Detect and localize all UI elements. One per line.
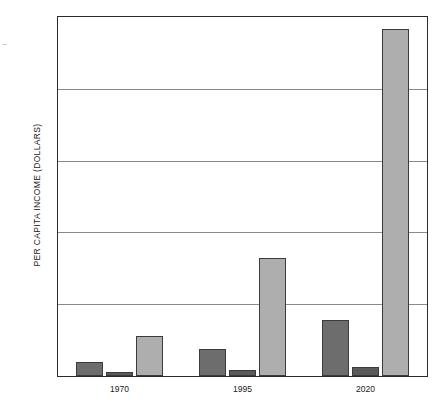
bar-1995-series-a [199, 349, 226, 376]
bar-2020-series-b [352, 367, 379, 376]
bar-1995-series-b [229, 370, 256, 376]
x-tick-label-2020: 2020 [356, 384, 375, 394]
plot-area [57, 16, 428, 377]
gridline [58, 161, 427, 162]
y-axis-title: PER CAPITA INCOME (DOLLARS) [32, 95, 42, 295]
gridline [58, 304, 427, 305]
x-tick-label-1970: 1970 [110, 384, 129, 394]
bar-2020-series-a [322, 320, 349, 376]
bar-chart: PER CAPITA INCOME (DOLLARS) 05,00010,000… [0, 0, 442, 401]
gridline [58, 232, 427, 233]
bar-2020-series-c [382, 29, 409, 377]
bar-1995-series-c [259, 258, 286, 376]
bar-1970-series-b [106, 372, 133, 376]
gridline [58, 89, 427, 90]
bar-1970-series-c [136, 336, 163, 376]
scan-artifact [3, 44, 7, 45]
x-tick-label-1995: 1995 [233, 384, 252, 394]
bar-1970-series-a [76, 362, 103, 376]
